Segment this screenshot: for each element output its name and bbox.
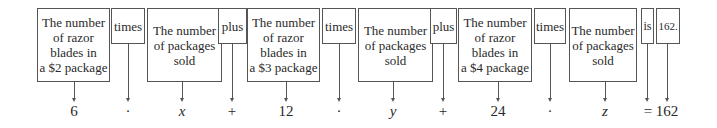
box-line: blades in [260, 45, 307, 60]
down-arrow-icon [182, 82, 183, 99]
box-line: of razor [53, 30, 94, 45]
equation-operator: + [228, 103, 236, 120]
box-line: of razor [263, 30, 304, 45]
equation-operator: · [126, 103, 131, 120]
down-arrow-icon [128, 44, 129, 99]
down-arrow-icon [286, 82, 287, 99]
equation-result: = 162 [644, 103, 679, 120]
equation-term: 12 [279, 103, 294, 120]
box-line: a $4 package [461, 60, 529, 75]
phrase-box-total: 162. [656, 8, 680, 44]
box-line: blades in [472, 45, 519, 60]
down-arrow-icon [393, 82, 394, 99]
down-arrow-icon [232, 44, 233, 99]
equation-variable: z [602, 103, 608, 120]
phrase-box-plus-2: plus [430, 8, 457, 44]
box-line: The number [153, 23, 216, 38]
box-line: of razor [475, 30, 516, 45]
box-text: 162. [658, 19, 677, 34]
equation-term: 6 [70, 103, 78, 120]
down-arrow-icon [443, 44, 444, 99]
down-arrow-icon [605, 82, 606, 99]
box-line: a $3 package [250, 60, 318, 75]
equation-variable: y [390, 103, 397, 120]
phrase-box-blades-4: The numberof razorblades ina $4 package [458, 8, 532, 82]
box-line: The number [42, 15, 105, 30]
box-text: times [114, 19, 142, 34]
box-line: sold [385, 53, 407, 68]
equation-term: 24 [491, 103, 506, 120]
box-line: The number [252, 15, 315, 30]
box-text: plus [222, 19, 244, 34]
box-text: is [643, 19, 651, 34]
phrase-box-blades-3: The numberof razorblades ina $3 package [247, 8, 320, 82]
phrase-box-plus-1: plus [218, 8, 247, 44]
phrase-box-blades-2: The numberof razorblades ina $2 package [37, 8, 110, 82]
box-line: of packages [154, 38, 216, 53]
equation-operator: + [439, 103, 447, 120]
down-arrow-icon [667, 44, 668, 99]
box-line: a $2 package [40, 60, 108, 75]
phrase-box-times-2: times [322, 8, 356, 44]
phrase-box-packages-1: The numberof packagessold [147, 8, 222, 82]
box-line: blades in [50, 45, 97, 60]
box-line: of packages [365, 38, 427, 53]
box-line: The number [571, 23, 634, 38]
box-text: plus [433, 19, 455, 34]
box-line: of packages [572, 38, 634, 53]
down-arrow-icon [647, 44, 648, 99]
box-text: times [536, 19, 564, 34]
phrase-box-times-3: times [534, 8, 566, 44]
box-line: The number [364, 23, 427, 38]
box-line: sold [592, 53, 614, 68]
box-line: The number [463, 15, 526, 30]
phrase-box-packages-2: The numberof packagessold [358, 8, 433, 82]
box-text: times [325, 19, 353, 34]
down-arrow-icon [339, 44, 340, 99]
equation-operator: · [548, 103, 553, 120]
phrase-box-is: is [641, 8, 654, 44]
down-arrow-icon [550, 44, 551, 99]
box-line: sold [174, 53, 196, 68]
phrase-box-packages-3: The numberof packagessold [569, 8, 637, 82]
equation-operator: · [337, 103, 342, 120]
down-arrow-icon [74, 82, 75, 99]
down-arrow-icon [498, 82, 499, 99]
equation-variable: x [179, 103, 186, 120]
phrase-box-times-1: times [111, 8, 145, 44]
